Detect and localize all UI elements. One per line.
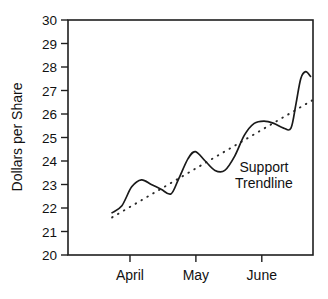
x-axis-ticks xyxy=(130,255,262,262)
chart-canvas: 3029282726252423222120 AprilMayJune Doll… xyxy=(0,0,328,299)
y-axis-tick-labels: 3029282726252423222120 xyxy=(42,13,58,263)
y-tick-label-24: 24 xyxy=(42,154,58,169)
y-tick-label-27: 27 xyxy=(42,84,57,99)
y-axis-title: Dollars per Share xyxy=(9,82,25,191)
y-tick-label-26: 26 xyxy=(42,107,57,122)
y-tick-label-23: 23 xyxy=(42,178,57,193)
x-tick-label-june: June xyxy=(247,267,278,283)
y-tick-label-25: 25 xyxy=(42,131,57,146)
x-axis-tick-labels: AprilMayJune xyxy=(116,267,277,283)
plot-frame xyxy=(68,20,313,255)
y-tick-label-29: 29 xyxy=(42,37,57,52)
x-tick-label-april: April xyxy=(116,267,144,283)
stock-chart-figure: 3029282726252423222120 AprilMayJune Doll… xyxy=(0,0,328,299)
x-tick-label-may: May xyxy=(183,267,209,283)
y-tick-label-28: 28 xyxy=(42,60,57,75)
annotation-trendline-label: Trendline xyxy=(235,175,293,191)
y-tick-label-30: 30 xyxy=(42,13,57,28)
y-axis-ticks xyxy=(61,20,68,255)
y-tick-label-22: 22 xyxy=(42,201,57,216)
y-tick-label-20: 20 xyxy=(42,248,57,263)
y-tick-label-21: 21 xyxy=(42,225,57,240)
price-series-line xyxy=(112,72,310,213)
annotation-support-label: Support xyxy=(239,159,288,175)
